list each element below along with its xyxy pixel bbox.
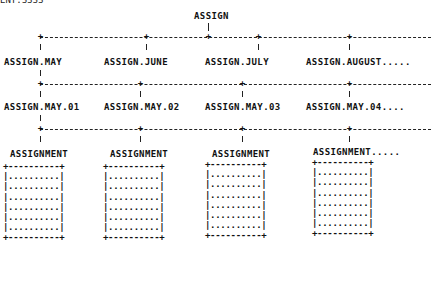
- bus-junction: +: [239, 124, 246, 133]
- level2-bus-line: [40, 84, 431, 85]
- box-row: |..........|: [3, 212, 69, 222]
- box-row: |..........|: [312, 167, 378, 177]
- box-top-border: +----------+: [312, 157, 378, 167]
- node-assign-may-02[interactable]: ASSIGN.MAY.02: [104, 102, 180, 112]
- bus-junction: +: [255, 32, 262, 41]
- record-box-1: +----------+ |..........| |..........| |…: [3, 161, 69, 243]
- connector: [40, 136, 41, 142]
- box-bottom-border: +----------+: [3, 232, 69, 242]
- box-row: |..........|: [312, 188, 378, 198]
- box-row: |..........|: [3, 171, 69, 181]
- node-assign-august[interactable]: ASSIGN.AUGUST.....: [306, 57, 411, 67]
- bus-junction: +: [346, 124, 353, 133]
- bus-junction: +: [143, 32, 150, 41]
- box-row: |..........|: [312, 198, 378, 208]
- node-assign-may-03[interactable]: ASSIGN.MAY.03: [205, 102, 281, 112]
- box-row: |..........|: [103, 192, 169, 202]
- box-row: |..........|: [103, 202, 169, 212]
- bus-junction: +: [346, 79, 353, 88]
- box-bottom-border: +----------+: [103, 232, 169, 242]
- box-row: |..........|: [205, 220, 271, 230]
- level1-bus-line: [40, 37, 431, 38]
- box-row: |..........|: [312, 208, 378, 218]
- bus-junction: +: [37, 79, 44, 88]
- box-row: |..........|: [3, 192, 69, 202]
- node-assignment-2[interactable]: ASSIGNMENT: [110, 149, 168, 159]
- record-box-4: +----------+ |..........| |..........| |…: [312, 157, 378, 239]
- box-row: |..........|: [3, 202, 69, 212]
- connector: [349, 91, 350, 97]
- connector: [146, 44, 147, 50]
- box-row: |..........|: [312, 177, 378, 187]
- record-box-2: +----------+ |..........| |..........| |…: [103, 161, 169, 243]
- connector: [242, 136, 243, 142]
- bus-junction: +: [239, 79, 246, 88]
- node-assign-may-04[interactable]: ASSIGN.MAY.04....: [306, 102, 405, 112]
- box-bottom-border: +----------+: [312, 228, 378, 238]
- box-row: |..........|: [103, 222, 169, 232]
- connector: [349, 136, 350, 142]
- node-assign-may-01[interactable]: ASSIGN.MAY.01: [4, 102, 80, 112]
- box-row: |..........|: [205, 169, 271, 179]
- bus-junction: +: [137, 124, 144, 133]
- box-row: |..........|: [205, 200, 271, 210]
- bus-junction: +: [346, 32, 353, 41]
- connector: [40, 91, 41, 97]
- node-assign-may[interactable]: ASSIGN.MAY: [4, 57, 62, 67]
- box-row: |..........|: [312, 218, 378, 228]
- connector: [242, 91, 243, 97]
- box-row: |..........|: [205, 210, 271, 220]
- root-connector: [208, 23, 209, 31]
- connector: [40, 44, 41, 50]
- connector: [258, 44, 259, 50]
- box-row: |..........|: [3, 181, 69, 191]
- node-assign-july[interactable]: ASSIGN.JULY: [205, 57, 269, 67]
- node-assignment-1[interactable]: ASSIGNMENT: [10, 149, 68, 159]
- box-row: |..........|: [103, 181, 169, 191]
- bus-junction: +: [137, 79, 144, 88]
- node-assign-june[interactable]: ASSIGN.JUNE: [104, 57, 168, 67]
- node-assignment-3[interactable]: ASSIGNMENT: [212, 149, 270, 159]
- box-top-border: +----------+: [3, 161, 69, 171]
- bus-junction: +: [37, 124, 44, 133]
- node-assignment-4[interactable]: ASSIGNMENT.....: [313, 147, 400, 157]
- record-box-3: +----------+ |..........| |..........| |…: [205, 159, 271, 241]
- connector: [40, 115, 41, 121]
- root-node-assign[interactable]: ASSIGN: [194, 11, 229, 21]
- box-row: |..........|: [205, 190, 271, 200]
- clipped-header-text: ENT.SSSS: [0, 0, 43, 5]
- connector: [140, 91, 141, 97]
- box-bottom-border: +----------+: [205, 230, 271, 240]
- box-row: |..........|: [103, 171, 169, 181]
- connector: [40, 70, 41, 76]
- box-row: |..........|: [3, 222, 69, 232]
- box-top-border: +----------+: [103, 161, 169, 171]
- box-row: |..........|: [103, 212, 169, 222]
- connector: [140, 136, 141, 142]
- level3-bus-line: [40, 129, 431, 130]
- connector: [349, 44, 350, 50]
- bus-junction: +: [37, 32, 44, 41]
- box-top-border: +----------+: [205, 159, 271, 169]
- box-row: |..........|: [205, 179, 271, 189]
- bus-junction: +: [205, 32, 212, 41]
